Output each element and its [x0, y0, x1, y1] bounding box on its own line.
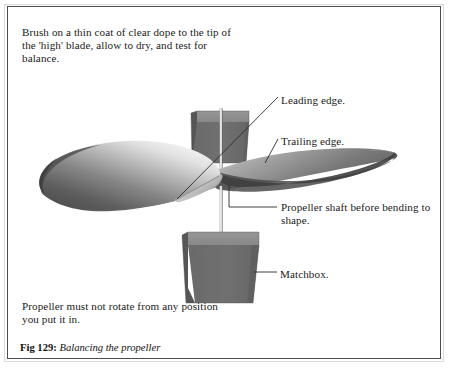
callout-label-matchbox: Matchbox. [280, 268, 329, 281]
figure-caption: Fig 129: Balancing the propeller [20, 342, 160, 353]
callout-label-leading-edge: Leading edge. [281, 94, 345, 107]
instruction-text-top: Brush on a thin coat of clear dope to th… [22, 26, 232, 66]
instruction-text-bottom: Propeller must not rotate from any posit… [22, 300, 227, 326]
callout-label-propeller-shaft: Propeller shaft before bending to shape. [281, 201, 441, 227]
figure-caption-label: Fig 129: [20, 342, 57, 353]
figure-caption-title: Balancing the propeller [59, 342, 160, 353]
figure-page: Brush on a thin coat of clear dope to th… [0, 0, 449, 372]
callout-label-trailing-edge: Trailing edge. [281, 135, 344, 148]
